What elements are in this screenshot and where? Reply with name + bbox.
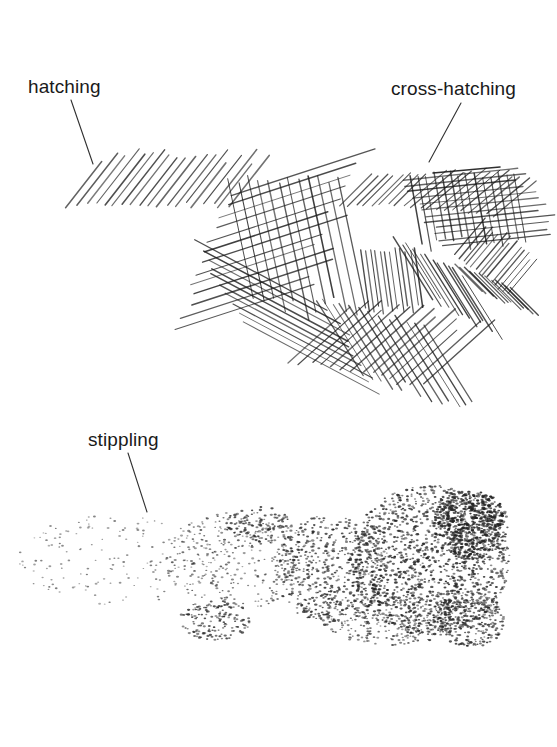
- stipple-dot: [255, 526, 258, 528]
- label-cross-hatching: cross-hatching: [391, 79, 516, 98]
- stipple-dot: [255, 539, 258, 541]
- stipple-dot: [322, 619, 325, 621]
- stipple-dot: [401, 633, 403, 635]
- stipple-dot: [426, 595, 429, 597]
- stipple-dot: [430, 608, 433, 610]
- stipple-dot: [330, 590, 333, 592]
- stipple-dot: [344, 622, 346, 623]
- stipple-dot: [88, 516, 90, 517]
- stipple-dot: [308, 588, 311, 590]
- stipple-dot: [374, 643, 377, 645]
- stipple-dot: [439, 609, 442, 611]
- stipple-dot: [477, 589, 480, 591]
- stipple-dot: [55, 528, 57, 529]
- stipple-dot: [259, 522, 261, 523]
- stipple-dot: [346, 607, 349, 609]
- stipple-dot: [448, 633, 451, 635]
- stipple-dot: [303, 607, 306, 609]
- stipple-dot: [481, 625, 484, 627]
- stipple-dot: [394, 556, 397, 558]
- stipple-dot: [481, 547, 483, 549]
- stipple-dot: [486, 582, 489, 584]
- stipple-dot: [345, 541, 348, 543]
- stipple-dot: [311, 569, 313, 571]
- stipple-dot: [289, 539, 292, 541]
- stipple-dot: [432, 492, 435, 494]
- stipple-dot: [227, 518, 230, 520]
- stipple-dot: [203, 547, 205, 548]
- stipple-dot: [476, 495, 480, 497]
- stipple-dot: [398, 571, 401, 573]
- stipple-dot: [431, 629, 434, 631]
- stipple-dot: [347, 579, 350, 581]
- stipple-dot: [182, 626, 185, 628]
- stipple-dot: [496, 604, 498, 605]
- stipple-dot: [66, 551, 68, 552]
- stipple-dot: [395, 513, 398, 515]
- stipple-dot: [471, 503, 474, 505]
- cross-hatch-stroke: [228, 179, 254, 299]
- stipple-dot: [434, 561, 437, 563]
- stipple-dot: [110, 568, 112, 569]
- stipple-dot: [335, 606, 337, 608]
- stipple-dot: [457, 579, 459, 581]
- stipple-dot: [317, 613, 320, 615]
- stipple-dot: [230, 575, 232, 576]
- stipple-dot: [416, 539, 419, 541]
- stipple-dot: [413, 561, 416, 563]
- stipple-dot: [378, 515, 381, 517]
- stipple-dot: [438, 560, 440, 562]
- stipple-dot: [385, 609, 387, 610]
- stipple-dot: [432, 578, 435, 580]
- stipple-dot: [404, 635, 407, 637]
- stipple-dot: [305, 599, 307, 601]
- stipple-dot: [192, 604, 194, 605]
- stipple-dot: [391, 569, 395, 572]
- stipple-dot: [455, 542, 458, 544]
- cross-hatch-stroke: [433, 260, 469, 318]
- stipple-dot: [33, 583, 35, 584]
- stipple-dot: [487, 624, 489, 625]
- stipple-dot: [494, 524, 498, 526]
- stipple-dot: [383, 551, 386, 553]
- stipple-dot: [495, 637, 498, 639]
- stipple-dot: [377, 538, 380, 540]
- stipple-dot: [401, 495, 403, 497]
- stipple-dot: [428, 580, 430, 581]
- stipple-dot: [273, 581, 276, 583]
- stipple-dot: [418, 619, 420, 621]
- stipple-dot: [357, 563, 361, 566]
- stipple-dot: [422, 543, 426, 545]
- stipple-dot: [447, 564, 449, 566]
- stipple-dot: [429, 600, 433, 602]
- stipple-dot: [418, 493, 421, 495]
- stipple-dot: [455, 531, 458, 533]
- stipple-dot: [326, 602, 328, 604]
- stipple-dot: [461, 547, 464, 549]
- stipple-dot: [350, 602, 353, 604]
- stipple-dot: [482, 609, 485, 611]
- stipple-dot: [481, 622, 483, 623]
- stipple-dot: [319, 560, 321, 561]
- stipple-dot: [437, 517, 440, 519]
- stipple-dot: [195, 609, 197, 611]
- stipple-dot: [471, 551, 474, 553]
- stipple-dot: [405, 628, 407, 629]
- stipple-dot: [365, 542, 369, 544]
- stipple-dot: [108, 601, 110, 603]
- stipple-dot: [461, 598, 464, 600]
- stipple-dot: [363, 522, 366, 524]
- stipple-dot: [211, 629, 213, 631]
- stipple-dot: [499, 592, 502, 594]
- stipple-dot: [382, 541, 386, 543]
- stipple-dot: [218, 530, 220, 531]
- stipple-dot: [391, 593, 394, 595]
- stipple-dot: [218, 618, 220, 620]
- stipple-dot: [300, 527, 303, 529]
- stipple-dot: [341, 568, 343, 570]
- stipple-dot: [232, 602, 235, 604]
- stipple-dot: [310, 562, 313, 564]
- stipple-dot: [297, 531, 299, 533]
- stipple-dot: [384, 601, 387, 603]
- stipple-dot: [264, 531, 267, 533]
